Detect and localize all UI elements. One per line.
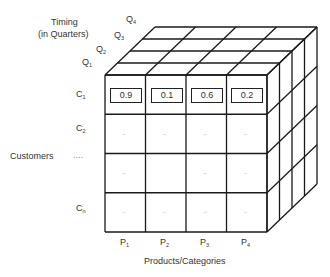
- product-tick-p3: P3: [200, 238, 209, 249]
- product-tick-p1: P1: [120, 238, 129, 249]
- placeholder-dots: ..: [203, 168, 206, 175]
- product-tick-p4: P4: [241, 238, 250, 249]
- customers-ellipsis: ....: [73, 151, 83, 160]
- placeholder-dots: ..: [122, 168, 125, 175]
- cell-c1-p3-value: 0.6: [191, 88, 223, 103]
- cell-c1-p2-value: 0.1: [151, 88, 183, 103]
- customer-tick-c1: C1: [76, 90, 86, 101]
- placeholder-dots: ..: [244, 168, 247, 175]
- placeholder-dots: ..: [203, 129, 206, 136]
- timing-tick-q2: Q2: [96, 45, 106, 56]
- data-cube-drawing: [0, 0, 330, 277]
- placeholder-dots: ..: [122, 129, 125, 136]
- customer-tick-cn: Cn: [76, 204, 86, 215]
- placeholder-dots: ..: [163, 207, 166, 214]
- placeholder-dots: ..: [122, 207, 125, 214]
- timing-tick-q4: Q4: [126, 15, 136, 26]
- timing-axis-title-line2: (in Quarters): [38, 30, 89, 39]
- customer-tick-c2: C2: [76, 124, 86, 135]
- placeholder-dots: ..: [163, 129, 166, 136]
- cell-c1-p4-value: 0.2: [231, 88, 263, 103]
- placeholder-dots: ..: [244, 207, 247, 214]
- customers-axis-title: Customers: [10, 152, 54, 161]
- timing-axis-title-line1: Timing: [51, 18, 78, 27]
- products-axis-title: Products/Categories: [144, 257, 226, 266]
- placeholder-dots: ..: [244, 129, 247, 136]
- product-tick-p2: P2: [160, 238, 169, 249]
- placeholder-dots: ..: [203, 207, 206, 214]
- cell-c1-p1-value: 0.9: [110, 88, 142, 103]
- timing-tick-q1: Q1: [82, 58, 92, 69]
- timing-tick-q3: Q3: [114, 31, 124, 42]
